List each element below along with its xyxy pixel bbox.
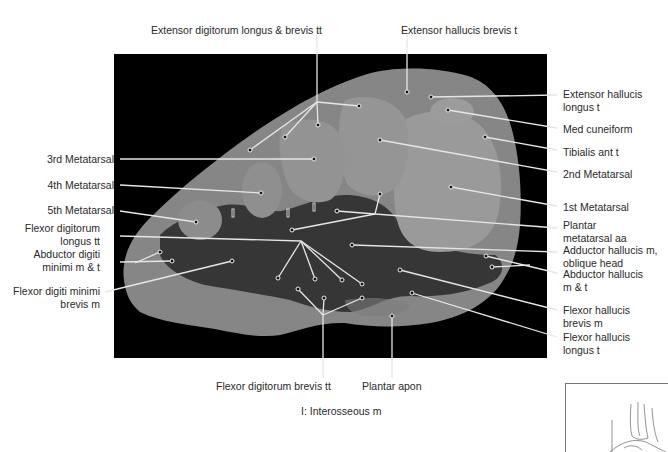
label-flexor-hallucis-longus: Flexor hallucis longus t	[563, 331, 630, 356]
fourth-metatarsal-bone	[242, 162, 282, 218]
label-plantar-apon: Plantar apon	[362, 380, 422, 393]
label-extensor-hallucis-brevis: Extensor hallucis brevis t	[401, 24, 517, 37]
label-extensor-digitorum-longus-brevis: Extensor digitorum longus & brevis tt	[151, 24, 322, 37]
label-tibialis-ant: Tibialis ant t	[563, 146, 619, 159]
legend-interosseous: I: Interosseous m	[301, 405, 382, 418]
label-abductor-hallucis: Abductor hallucis m & t	[563, 268, 643, 293]
label-2nd-metatarsal: 2nd Metatarsal	[563, 168, 632, 181]
first-metatarsal-bone	[394, 112, 501, 252]
label-flexor-hallucis-brevis: Flexor hallucis brevis m	[563, 304, 630, 329]
foot-sketch-icon	[566, 384, 668, 452]
orientation-inset	[565, 383, 668, 452]
label-flexor-digitorum-brevis: Flexor digitorum brevis tt	[216, 380, 331, 393]
label-med-cuneiform: Med cuneiform	[563, 123, 632, 136]
label-plantar-metatarsal-aa: Plantar metatarsal aa	[563, 219, 627, 244]
label-flexor-digitorum-longus: Flexor digitorum longus tt	[25, 222, 100, 247]
label-extensor-hallucis-longus: Extensor hallucis longus t	[563, 88, 642, 113]
label-abductor-digiti-minimi: Abductor digiti minimi m & t	[33, 248, 100, 273]
label-3rd-metatarsal: 3rd Metatarsal	[47, 153, 114, 166]
second-metatarsal-bone	[339, 97, 409, 196]
label-4th-metatarsal: 4th Metatarsal	[47, 179, 114, 192]
label-adductor-hallucis-oblique: Adductor hallucis m, oblique head	[563, 244, 658, 269]
label-5th-metatarsal: 5th Metatarsal	[47, 204, 114, 217]
label-1st-metatarsal: 1st Metatarsal	[563, 201, 629, 214]
label-flexor-digiti-minimi-brevis: Flexor digiti minimi brevis m	[13, 285, 100, 310]
medial-cuneiform-bone	[430, 98, 474, 126]
